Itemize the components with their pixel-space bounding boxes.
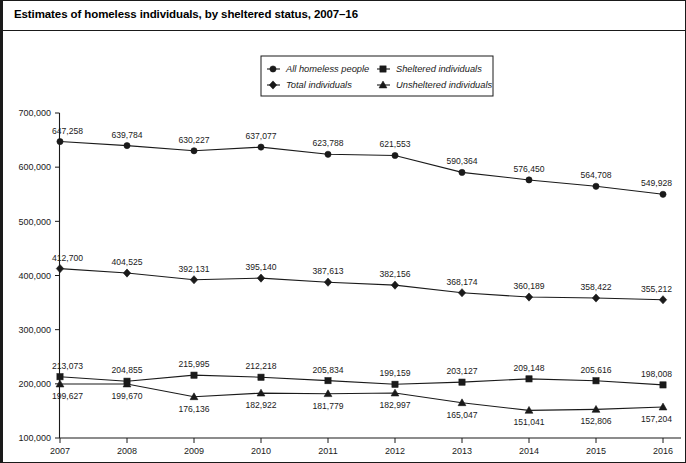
y-axis-tick-label: 200,000 (18, 379, 51, 389)
x-axis-tick-label: 2007 (50, 446, 70, 456)
data-point-marker (459, 379, 465, 385)
data-point-marker (325, 151, 331, 157)
data-point-marker (191, 148, 197, 154)
data-point-label: 412,700 (52, 253, 83, 263)
data-point-label: 647,258 (52, 126, 83, 136)
data-point-label: 630,227 (178, 135, 209, 145)
data-point-label: 152,806 (580, 416, 611, 426)
data-point-label: 176,136 (178, 404, 209, 414)
data-point-marker (258, 144, 264, 150)
x-axis-tick-label: 2008 (117, 446, 137, 456)
data-point-marker (123, 269, 130, 277)
data-point-marker (526, 177, 532, 183)
data-point-marker (593, 378, 599, 384)
data-point-marker (324, 278, 331, 286)
data-point-label: 199,159 (379, 368, 410, 378)
x-axis-tick-label: 2015 (586, 446, 606, 456)
data-point-label: 212,218 (245, 361, 276, 371)
data-point-label: 395,140 (245, 262, 276, 272)
data-point-label: 151,041 (513, 417, 544, 427)
data-point-label: 355,212 (641, 284, 672, 294)
data-point-marker (56, 265, 63, 273)
y-axis-tick-label: 400,000 (18, 271, 51, 281)
data-point-label: 621,553 (379, 139, 410, 149)
x-axis-tick-label: 2009 (184, 446, 204, 456)
data-point-label: 358,422 (580, 282, 611, 292)
data-point-marker (659, 403, 667, 410)
data-point-label: 204,855 (111, 365, 142, 375)
x-axis-tick-label: 2010 (251, 446, 271, 456)
data-point-label: 182,922 (245, 400, 276, 410)
series-line-square (60, 375, 663, 385)
data-point-label: 205,834 (312, 365, 343, 375)
data-point-marker (660, 191, 666, 197)
data-point-label: 368,174 (446, 277, 477, 287)
data-point-label: 590,364 (446, 156, 477, 166)
legend-label: Sheltered individuals (396, 64, 482, 74)
data-point-label: 157,204 (641, 414, 672, 424)
data-point-label: 623,788 (312, 138, 343, 148)
data-point-label: 382,156 (379, 269, 410, 279)
data-point-marker (124, 143, 130, 149)
series-line-diamond (60, 269, 663, 300)
data-point-label: 576,450 (513, 164, 544, 174)
data-point-marker (459, 169, 465, 175)
data-point-marker (593, 183, 599, 189)
data-point-marker (57, 138, 63, 144)
data-point-marker (392, 152, 398, 158)
x-axis-tick-label: 2014 (519, 446, 539, 456)
data-point-label: 392,131 (178, 264, 209, 274)
data-point-label: 165,047 (446, 410, 477, 420)
data-point-marker (659, 296, 666, 304)
y-axis-tick-label: 100,000 (18, 433, 51, 443)
data-point-label: 181,779 (312, 401, 343, 411)
data-point-marker (458, 289, 465, 297)
data-point-marker (258, 374, 264, 380)
legend-label: All homeless people (285, 64, 369, 74)
title-bar: Estimates of homeless individuals, by sh… (3, 1, 685, 31)
line-chart: All homeless peopleSheltered individuals… (3, 31, 686, 463)
x-axis-tick-label: 2013 (452, 446, 472, 456)
data-point-marker (592, 294, 599, 302)
page-title: Estimates of homeless individuals, by sh… (14, 8, 358, 20)
data-point-label: 182,997 (379, 400, 410, 410)
y-axis-tick-label: 500,000 (18, 217, 51, 227)
data-point-label: 404,525 (111, 257, 142, 267)
data-point-marker (257, 274, 264, 282)
diamond-marker-icon (269, 81, 276, 89)
data-point-marker (392, 381, 398, 387)
data-point-label: 360,189 (513, 281, 544, 291)
data-point-marker (191, 372, 197, 378)
square-marker-icon (380, 66, 386, 72)
y-axis-tick-label: 600,000 (18, 162, 51, 172)
data-point-label: 564,708 (580, 170, 611, 180)
chart-figure: Estimates of homeless individuals, by sh… (0, 0, 686, 463)
x-axis-tick-label: 2016 (653, 446, 673, 456)
data-point-marker (391, 281, 398, 289)
data-point-label: 199,627 (52, 391, 83, 401)
y-axis-tick-label: 700,000 (18, 108, 51, 118)
data-point-marker (526, 376, 532, 382)
data-point-label: 213,073 (52, 361, 83, 371)
data-point-label: 199,670 (111, 391, 142, 401)
data-point-label: 198,008 (641, 369, 672, 379)
data-point-label: 209,148 (513, 363, 544, 373)
data-point-marker (57, 374, 63, 380)
data-point-label: 205,616 (580, 365, 611, 375)
x-axis-tick-label: 2012 (385, 446, 405, 456)
circle-marker-icon (270, 66, 276, 72)
legend-label: Total individuals (286, 80, 352, 90)
data-point-label: 549,928 (641, 178, 672, 188)
chart-legend: All homeless peopleSheltered individuals… (261, 56, 493, 96)
data-point-label: 387,613 (312, 266, 343, 276)
data-point-label: 637,077 (245, 131, 276, 141)
y-axis-tick-label: 300,000 (18, 325, 51, 335)
series-line-circle (60, 142, 663, 195)
data-point-marker (660, 382, 666, 388)
data-point-marker (525, 293, 532, 301)
data-point-label: 203,127 (446, 366, 477, 376)
data-point-label: 639,784 (111, 130, 142, 140)
legend-label: Unsheltered individuals (396, 80, 492, 90)
data-point-label: 215,995 (178, 359, 209, 369)
x-axis-tick-label: 2011 (318, 446, 337, 456)
